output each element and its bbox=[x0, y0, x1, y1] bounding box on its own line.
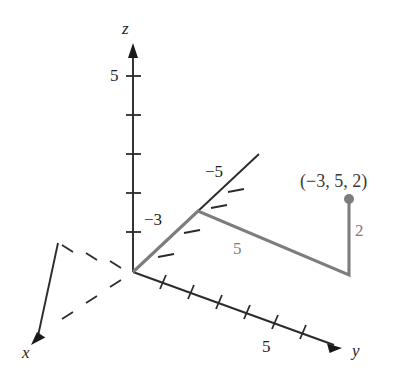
x-axis-group bbox=[31, 243, 121, 345]
point-locator-path bbox=[133, 194, 354, 275]
x-axis-arrowhead bbox=[31, 332, 45, 345]
path-y-segment-label: 5 bbox=[233, 240, 242, 257]
x-axis-tick bbox=[86, 296, 97, 303]
x-axis-label: x bbox=[22, 344, 30, 361]
x-axis-tick bbox=[86, 253, 97, 260]
path-x-segment-label: −3 bbox=[144, 211, 162, 228]
point-coordinate-label: (−3, 5, 2) bbox=[300, 172, 367, 190]
z-axis-group bbox=[126, 43, 141, 272]
axes-and-path-svg bbox=[0, 0, 408, 382]
x-axis-tick bbox=[62, 245, 73, 252]
z-axis-tick-label-5: 5 bbox=[110, 67, 119, 84]
y-axis-arrowhead bbox=[327, 343, 342, 353]
y-axis-label: y bbox=[352, 342, 360, 359]
path-polyline bbox=[133, 201, 349, 275]
coordinate-system-figure: z 5 x y 5 −5 −3 5 2 (−3, 5, 2) bbox=[0, 0, 408, 382]
plotted-point-marker bbox=[344, 194, 354, 204]
y-axis-negative-tick bbox=[184, 230, 200, 233]
x-axis-tick bbox=[110, 280, 121, 287]
x-axis-tick bbox=[62, 312, 73, 319]
x-axis-line bbox=[38, 243, 58, 336]
z-axis-arrowhead bbox=[128, 43, 138, 58]
path-z-segment-label: 2 bbox=[355, 222, 364, 239]
y-axis-negative-tick bbox=[158, 254, 174, 257]
z-axis-label: z bbox=[122, 20, 129, 37]
y-axis-negative-tick bbox=[211, 205, 227, 208]
y-axis-negative-tick bbox=[228, 189, 244, 192]
y-axis-tick-label-5: 5 bbox=[262, 338, 271, 355]
y-axis-tick-label-negative-5: −5 bbox=[205, 163, 223, 180]
x-axis-tick bbox=[110, 261, 121, 268]
